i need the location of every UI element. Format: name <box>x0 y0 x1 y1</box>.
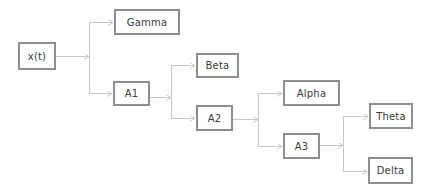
node-label: A2 <box>208 113 222 124</box>
node-alpha: Alpha <box>283 80 340 106</box>
node-theta: Theta <box>369 103 413 129</box>
node-a3: A3 <box>283 133 320 159</box>
node-label: A3 <box>295 141 309 152</box>
node-beta: Beta <box>196 53 239 78</box>
node-label: Delta <box>377 165 405 176</box>
node-label: Theta <box>376 111 406 122</box>
node-gamma: Gamma <box>114 9 180 35</box>
node-a2: A2 <box>196 105 233 131</box>
node-label: Gamma <box>127 17 168 28</box>
node-delta: Delta <box>368 157 413 184</box>
node-label: A1 <box>125 88 139 99</box>
node-label: x(t) <box>28 51 46 62</box>
node-x-t: x(t) <box>18 42 56 70</box>
node-a1: A1 <box>113 81 150 106</box>
node-label: Alpha <box>297 88 326 99</box>
node-label: Beta <box>206 60 230 71</box>
signal-decomposition-tree: x(t) Gamma A1 Beta A2 Alpha A3 Theta Del… <box>0 0 432 193</box>
